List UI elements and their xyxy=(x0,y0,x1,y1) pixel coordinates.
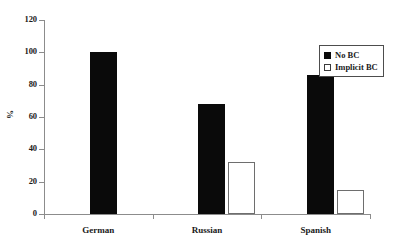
y-axis-tick-label-wrap: 60 xyxy=(0,112,37,122)
y-axis-tick-label: 40 xyxy=(3,144,37,153)
x-axis-label-german: German xyxy=(44,226,153,235)
y-axis-tick-label-wrap: 0 xyxy=(0,209,37,219)
legend-item-implicit-bc: Implicit BC xyxy=(324,61,378,73)
x-axis-tick xyxy=(370,214,371,219)
y-axis-tick-label-wrap: 80 xyxy=(0,80,37,90)
y-axis-tick-label-wrap: 120 xyxy=(0,15,37,25)
y-axis-tick-label: 0 xyxy=(3,209,37,218)
y-axis-tick-label: 60 xyxy=(3,112,37,121)
x-axis-line xyxy=(44,214,370,215)
x-axis-label-russian: Russian xyxy=(153,226,262,235)
legend-item-no-bc: No BC xyxy=(324,49,378,61)
bar-russian-implicit-bc xyxy=(228,162,255,214)
bar-chart: % 020406080100120 GermanRussianSpanish N… xyxy=(0,0,398,251)
y-axis-tick-label: 120 xyxy=(3,15,37,24)
y-axis-tick-label: 20 xyxy=(3,177,37,186)
y-axis-tick-label: 100 xyxy=(3,47,37,56)
x-axis-tick xyxy=(44,214,45,219)
legend-swatch-hollow-square-icon xyxy=(324,64,331,71)
x-axis-label-spanish: Spanish xyxy=(261,226,370,235)
legend-swatch-filled-square-icon xyxy=(324,52,331,59)
bar-russian-no-bc xyxy=(198,104,225,214)
x-axis-tick xyxy=(153,214,154,219)
legend: No BC Implicit BC xyxy=(319,45,384,77)
x-axis-tick xyxy=(261,214,262,219)
y-axis-tick-label-wrap: 100 xyxy=(0,47,37,57)
y-axis-tick-label-wrap: 20 xyxy=(0,177,37,187)
y-axis-tick-label-wrap: 40 xyxy=(0,144,37,154)
y-axis-tick-label: 80 xyxy=(3,80,37,89)
legend-label-implicit-bc: Implicit BC xyxy=(335,63,378,72)
bar-german-no-bc xyxy=(90,52,117,214)
bar-spanish-no-bc xyxy=(307,75,334,214)
legend-label-no-bc: No BC xyxy=(335,51,359,60)
bar-spanish-implicit-bc xyxy=(337,190,364,214)
